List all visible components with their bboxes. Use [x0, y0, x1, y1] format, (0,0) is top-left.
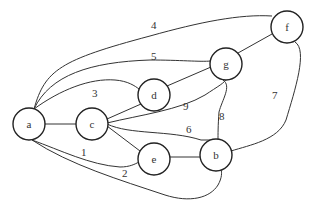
- edge-label-4: 4: [151, 19, 157, 31]
- node-label-e: e: [152, 153, 157, 165]
- edge-label-1: 1: [81, 146, 87, 158]
- node-label-f: f: [285, 21, 289, 33]
- edge-label-5: 5: [151, 50, 157, 62]
- node-label-d: d: [151, 89, 157, 101]
- node-f: f: [271, 11, 303, 43]
- edge-labels: 4 5 3 1 2 9 6 8 7: [81, 19, 278, 179]
- node-b: b: [200, 139, 232, 171]
- node-label-b: b: [213, 149, 219, 161]
- node-label-c: c: [90, 118, 95, 130]
- edge-label-3: 3: [92, 87, 98, 99]
- edge-d-g: [167, 67, 211, 86]
- edge-label-9: 9: [183, 100, 189, 112]
- node-a: a: [13, 108, 45, 140]
- node-label-a: a: [27, 118, 32, 130]
- edge-c-e: [107, 126, 140, 151]
- edges: [32, 16, 300, 199]
- edge-label-7: 7: [272, 89, 278, 101]
- nodes: a c d e b g f: [13, 11, 303, 175]
- node-g: g: [210, 48, 242, 80]
- edge-label-2: 2: [122, 167, 128, 179]
- edge-label-6: 6: [186, 123, 192, 135]
- node-d: d: [138, 79, 170, 111]
- node-e: e: [138, 143, 170, 175]
- node-c: c: [76, 108, 108, 140]
- edge-label-8: 8: [219, 110, 225, 122]
- weighted-graph-diagram: 4 5 3 1 2 9 6 8 7 a c d e b: [0, 0, 309, 211]
- edge-a-d: [34, 80, 139, 109]
- node-label-g: g: [223, 58, 229, 70]
- edge-g-f: [238, 34, 272, 53]
